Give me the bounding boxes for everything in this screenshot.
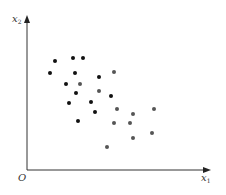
data-point-class-black-7 [67, 101, 71, 105]
data-point-class-gray-2 [97, 89, 101, 93]
data-point-class-gray-4 [131, 112, 135, 116]
origin-label: O [18, 172, 26, 183]
data-point-class-gray-6 [112, 121, 116, 125]
data-point-class-gray-8 [150, 131, 154, 135]
data-point-class-black-6 [74, 91, 78, 95]
axes [24, 15, 211, 173]
data-point-class-gray-9 [131, 136, 135, 140]
data-point-class-gray-10 [105, 145, 109, 149]
data-point-class-gray-1 [112, 70, 116, 74]
data-points [48, 56, 156, 149]
y-axis-arrow [24, 15, 30, 23]
y-axis-label: x2 [12, 13, 22, 25]
data-point-class-black-0 [48, 71, 52, 75]
data-point-class-black-8 [89, 100, 93, 104]
data-point-class-black-10 [76, 119, 80, 123]
data-point-class-black-5 [64, 82, 68, 86]
scatter-chart: O x1 x2 [0, 0, 226, 195]
data-point-class-black-2 [71, 56, 75, 60]
data-point-class-gray-7 [128, 121, 132, 125]
data-point-class-black-11 [97, 75, 101, 79]
data-point-class-black-3 [81, 56, 85, 60]
data-point-class-gray-3 [115, 107, 119, 111]
data-point-class-black-9 [93, 110, 97, 114]
data-point-class-black-12 [109, 94, 113, 98]
data-point-class-gray-0 [78, 82, 82, 86]
data-point-class-black-4 [73, 71, 77, 75]
data-point-class-black-1 [53, 59, 57, 63]
x-axis-label: x1 [201, 172, 210, 184]
data-point-class-gray-5 [152, 107, 156, 111]
